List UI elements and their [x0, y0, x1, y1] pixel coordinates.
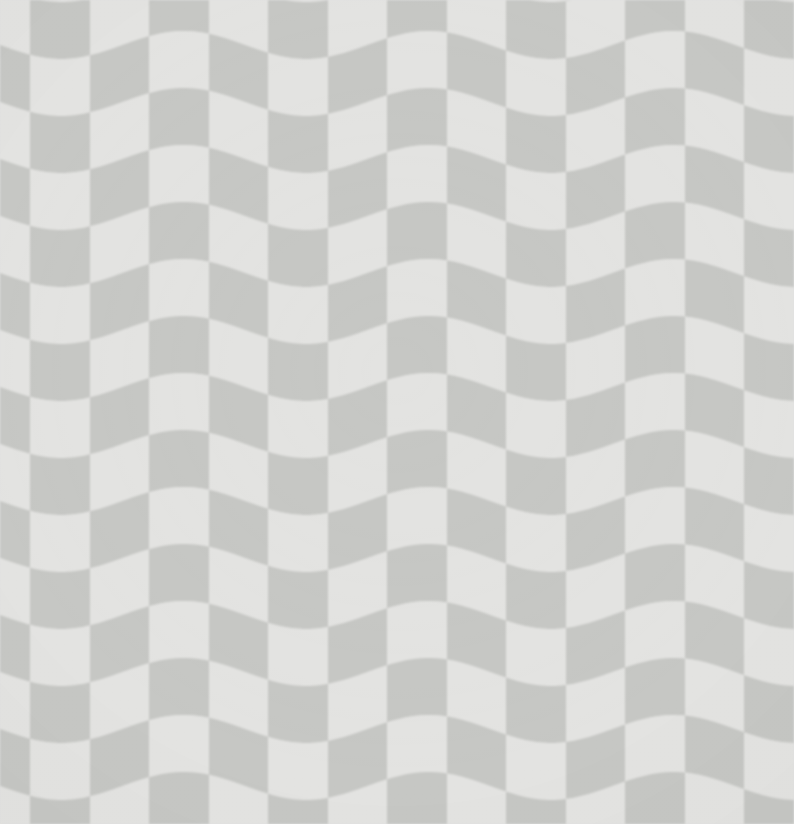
pattern-stage: Wavy Checkerboard Optical Illusion [0, 0, 794, 824]
wavy-checkerboard-canvas [0, 0, 794, 824]
